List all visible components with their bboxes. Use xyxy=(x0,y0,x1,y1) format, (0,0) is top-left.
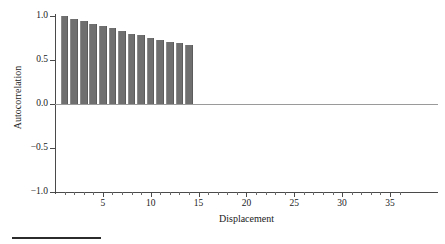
y-axis-tick-label: 1.0 xyxy=(2,11,48,21)
x-axis-minor-tick xyxy=(361,192,362,195)
bar xyxy=(118,31,126,104)
bottom-rule-artifact xyxy=(12,237,101,239)
y-axis-title: Autocorrelation xyxy=(12,38,23,158)
y-axis-tick-label: −1.0 xyxy=(2,187,48,197)
bar-series-autocorrelation xyxy=(55,16,437,104)
x-axis-minor-tick xyxy=(208,192,209,195)
x-axis-minor-tick xyxy=(313,192,314,195)
x-axis-minor-tick xyxy=(304,192,305,195)
x-axis-tick-label: 25 xyxy=(279,199,309,209)
x-axis-minor-tick xyxy=(84,192,85,195)
bar xyxy=(176,43,184,104)
bar xyxy=(109,28,117,104)
x-axis-minor-tick xyxy=(380,192,381,195)
x-axis-tick-label: 20 xyxy=(231,199,261,209)
x-axis-major-tick xyxy=(294,192,295,197)
x-axis-tick-label: 10 xyxy=(136,199,166,209)
x-axis-major-tick xyxy=(151,192,152,197)
y-axis-tick xyxy=(50,104,55,105)
x-axis-minor-tick xyxy=(400,192,401,195)
bar xyxy=(147,38,155,104)
bar xyxy=(70,19,78,104)
x-axis-tick-label: 35 xyxy=(375,199,405,209)
x-axis-minor-tick xyxy=(352,192,353,195)
x-axis-major-tick xyxy=(199,192,200,197)
x-axis-minor-tick xyxy=(285,192,286,195)
x-axis-tick-label: 30 xyxy=(327,199,357,209)
x-axis-minor-tick xyxy=(74,192,75,195)
x-axis-major-tick xyxy=(342,192,343,197)
x-axis-minor-tick xyxy=(333,192,334,195)
bar xyxy=(128,34,136,104)
x-axis-minor-tick xyxy=(218,192,219,195)
bar xyxy=(137,35,145,104)
x-axis-minor-tick xyxy=(189,192,190,195)
chart-figure: 1.00.50.0−0.5−1.0 Autocorrelation Displa… xyxy=(0,0,445,244)
x-axis-title: Displacement xyxy=(55,213,438,224)
x-axis-major-tick xyxy=(246,192,247,197)
y-axis-tick-label: 0.0 xyxy=(2,99,48,109)
x-axis-minor-tick xyxy=(170,192,171,195)
y-axis-label-group: 1.00.50.0−0.5−1.0 xyxy=(0,0,48,244)
y-axis-tick xyxy=(50,60,55,61)
x-axis-minor-tick xyxy=(112,192,113,195)
x-axis-tick-label: 15 xyxy=(184,199,214,209)
bar xyxy=(99,26,107,104)
x-axis-major-tick xyxy=(103,192,104,197)
bar xyxy=(61,16,69,104)
x-axis-minor-tick xyxy=(237,192,238,195)
x-axis-minor-tick xyxy=(275,192,276,195)
y-axis-tick xyxy=(50,192,55,193)
x-axis-tick-label: 5 xyxy=(88,199,118,209)
bar xyxy=(156,40,164,104)
x-axis-minor-tick xyxy=(93,192,94,195)
x-axis-minor-tick xyxy=(256,192,257,195)
bar xyxy=(185,45,193,104)
x-axis-minor-tick xyxy=(179,192,180,195)
x-axis-minor-tick xyxy=(371,192,372,195)
bar xyxy=(166,42,174,104)
x-axis-minor-tick xyxy=(65,192,66,195)
y-axis-tick xyxy=(50,16,55,17)
x-axis-minor-tick xyxy=(132,192,133,195)
x-axis-minor-tick xyxy=(160,192,161,195)
x-axis-minor-tick xyxy=(227,192,228,195)
x-axis-minor-tick xyxy=(141,192,142,195)
x-axis-minor-tick xyxy=(266,192,267,195)
bar xyxy=(89,24,97,104)
x-axis-minor-tick xyxy=(323,192,324,195)
y-axis-tick-label: −0.5 xyxy=(2,143,48,153)
bar xyxy=(80,21,88,104)
zero-baseline xyxy=(55,104,438,105)
y-axis-tick xyxy=(50,148,55,149)
y-axis-tick-label: 0.5 xyxy=(2,55,48,65)
x-axis-minor-tick xyxy=(122,192,123,195)
x-axis-major-tick xyxy=(390,192,391,197)
